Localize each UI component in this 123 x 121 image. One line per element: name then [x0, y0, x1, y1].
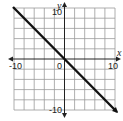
coordinate-plane: y 10 x -10 0 10 -10: [0, 0, 123, 121]
y-axis-down-arrow-icon: [62, 113, 67, 118]
x-max-label: 10: [108, 61, 118, 71]
x-min-label: -10: [9, 61, 22, 71]
y-axis-up-arrow-icon: [62, 2, 67, 7]
x-axis-label: x: [116, 47, 122, 58]
y-max-label: 10: [52, 7, 62, 17]
y-min-label: -10: [49, 105, 62, 115]
origin-label: 0: [57, 61, 62, 71]
